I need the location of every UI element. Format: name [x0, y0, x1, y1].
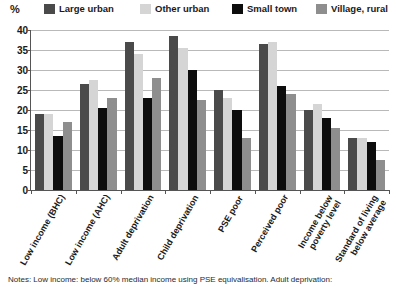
bar	[188, 70, 197, 190]
bar	[125, 42, 134, 190]
bar-group	[255, 30, 300, 190]
bar	[63, 122, 72, 190]
x-tick-label: Low income (BHC)	[18, 193, 67, 267]
bar	[313, 104, 322, 190]
bar	[98, 108, 107, 190]
bar	[89, 80, 98, 190]
bar	[223, 98, 232, 190]
legend-item-large-urban: Large urban	[44, 2, 114, 16]
bar	[331, 128, 340, 190]
x-tick-label-line: Low income (BHC)	[18, 193, 67, 267]
y-tick-label: 30	[4, 65, 28, 76]
bar	[107, 98, 116, 190]
bar	[53, 136, 62, 190]
bar	[367, 142, 376, 190]
bar	[214, 90, 223, 190]
x-tick-label: Perceived poor	[249, 193, 290, 254]
x-tick-mark	[389, 190, 390, 194]
legend-label: Large urban	[59, 4, 114, 14]
x-axis-tick-labels: Low income (BHC)Low income (AHC)Adult de…	[31, 190, 389, 262]
legend-swatch-icon	[316, 4, 327, 14]
y-axis-tick-labels: 0510152025303540	[0, 30, 28, 190]
y-tick-label: 35	[4, 45, 28, 56]
y-tick-label: 5	[4, 165, 28, 176]
legend-label: Other urban	[155, 4, 209, 14]
bar	[44, 114, 53, 190]
x-tick-label: Adult deprivation	[110, 193, 156, 262]
x-tick-label: Income belowpoverty level	[296, 193, 343, 255]
bar-group	[344, 30, 389, 190]
bar	[169, 36, 178, 190]
x-tick-label-line: Low income (AHC)	[63, 193, 112, 267]
bar	[357, 138, 366, 190]
chart-legend: % Large urban Other urban Small town Vil…	[0, 0, 396, 22]
x-tick-label: Low income (AHC)	[63, 193, 112, 267]
y-tick-label: 10	[4, 145, 28, 156]
bar	[259, 44, 268, 190]
legend-item-other-urban: Other urban	[140, 2, 209, 16]
y-tick-label: 40	[4, 25, 28, 36]
bar-chart-figure: % Large urban Other urban Small town Vil…	[0, 0, 396, 287]
bar-group	[210, 30, 255, 190]
bar	[242, 138, 251, 190]
bar-group	[300, 30, 345, 190]
bar	[277, 86, 286, 190]
bar-group	[121, 30, 166, 190]
bar	[376, 160, 385, 190]
plot-area	[31, 30, 389, 190]
bar	[134, 54, 143, 190]
bar	[348, 138, 357, 190]
x-tick-label-line: Child deprivation	[155, 193, 200, 262]
legend-swatch-icon	[140, 4, 151, 14]
legend-label: Village, rural	[331, 4, 388, 14]
bar	[286, 94, 295, 190]
x-tick-label-line: Perceived poor	[249, 193, 290, 254]
y-axis-unit-label: %	[10, 3, 20, 15]
bar	[232, 110, 241, 190]
legend-item-small-town: Small town	[232, 2, 297, 16]
bar-group	[31, 30, 76, 190]
x-tick-label: Child deprivation	[155, 193, 200, 262]
bar	[178, 48, 187, 190]
bar	[152, 78, 161, 190]
legend-item-village-rural: Village, rural	[316, 2, 388, 16]
bar	[322, 118, 331, 190]
bar	[143, 98, 152, 190]
bar	[80, 84, 89, 190]
y-tick-label: 25	[4, 85, 28, 96]
x-tick-label-line: PSE poor	[216, 193, 245, 233]
bar	[304, 110, 313, 190]
x-tick-label: PSE poor	[216, 193, 245, 233]
bar	[197, 100, 206, 190]
legend-swatch-icon	[44, 4, 55, 14]
y-tick-label: 15	[4, 125, 28, 136]
y-tick-label: 0	[4, 185, 28, 196]
legend-label: Small town	[247, 4, 297, 14]
x-tick-label-line: Adult deprivation	[110, 193, 156, 262]
y-tick-label: 20	[4, 105, 28, 116]
bar-group	[76, 30, 121, 190]
bar	[35, 114, 44, 190]
legend-swatch-icon	[232, 4, 243, 14]
bar-group	[165, 30, 210, 190]
chart-footnote: Notes: Low income: below 60% median inco…	[8, 275, 396, 286]
bar	[268, 42, 277, 190]
